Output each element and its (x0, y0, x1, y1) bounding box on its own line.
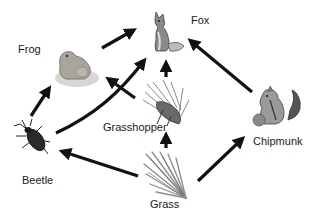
chipmunk-icon (250, 86, 306, 128)
frog-label: Frog (18, 43, 41, 55)
arrow-beetle-to-frog (31, 90, 48, 116)
chipmunk-label: Chipmunk (253, 135, 303, 147)
arrow-chipmunk-to-fox (192, 42, 252, 92)
fox-icon (150, 10, 186, 54)
arrow-frog-to-fox (102, 31, 132, 48)
fox-label: Fox (191, 14, 209, 26)
beetle-icon (12, 118, 56, 160)
grass-icon (142, 150, 192, 200)
beetle-label: Beetle (22, 174, 53, 186)
arrow-grass-to-chipmunk (198, 140, 241, 181)
frog-icon (52, 44, 100, 88)
grasshopper-label: Grasshopper (103, 121, 167, 133)
arrow-grass-to-beetle (64, 152, 138, 176)
grass-label: Grass (150, 198, 179, 210)
